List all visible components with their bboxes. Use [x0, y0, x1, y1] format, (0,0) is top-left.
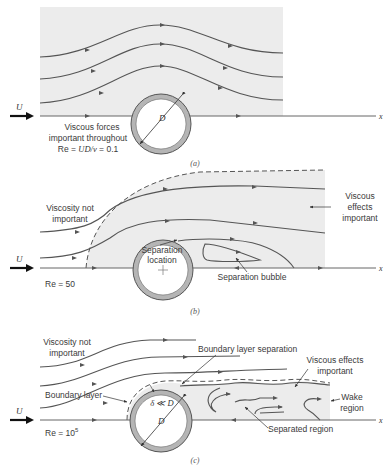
- caption-a: (a): [190, 159, 200, 168]
- x-axis-label: x: [378, 416, 383, 425]
- separation-location-label-2: location: [147, 255, 177, 265]
- viscosity-not-important-label: Viscosity not: [46, 203, 94, 213]
- panel-b: x U Viscosity not important Viscous effe…: [10, 170, 383, 316]
- boundary-layer-separation-label: Boundary layer separation: [198, 344, 298, 354]
- thickness-label: δ ≪ D: [150, 398, 174, 408]
- wake-region-shade: [180, 381, 330, 420]
- reynolds-number: Re = UD/ν = 0.1: [58, 144, 119, 154]
- diameter-label: D: [158, 113, 166, 123]
- free-stream-arrow: [10, 264, 34, 272]
- panel-c: x U D δ ≪ D Viscosity not important Boun…: [10, 337, 383, 465]
- free-stream-label: U: [16, 254, 23, 264]
- annotation-line-2: important throughout: [49, 133, 128, 143]
- caption-b: (b): [190, 307, 200, 316]
- diameter-label: D: [157, 416, 165, 426]
- free-stream-arrow: [10, 416, 34, 424]
- caption-c: (c): [191, 456, 200, 465]
- viscosity-not-important-label-2: important: [52, 214, 88, 224]
- annotation-line-1: Viscous forces: [64, 122, 119, 132]
- boundary-layer-label: Boundary layer: [45, 390, 102, 400]
- panel-a: x U D Viscous forces important throughou…: [10, 7, 383, 168]
- viscous-effects-label: Viscous: [345, 191, 375, 201]
- viscosity-not-important-label-2: important: [49, 348, 85, 358]
- separation-location-label: Separation: [141, 245, 182, 255]
- viscous-effects-label-2: effects: [348, 202, 373, 212]
- free-stream-label: U: [16, 406, 23, 416]
- reynolds-number: Re = 50: [45, 279, 75, 289]
- reynolds-number: Re = 105: [45, 427, 79, 438]
- separation-bubble-label: Separation bubble: [217, 272, 286, 282]
- flow-past-cylinder-figure: x U D Viscous forces important throughou…: [0, 0, 391, 475]
- viscous-region-shade: [86, 170, 325, 268]
- free-stream-label: U: [16, 102, 23, 112]
- x-axis-label: x: [378, 112, 383, 121]
- wake-region-label-2: region: [340, 403, 364, 413]
- wake-region-label: Wake: [341, 392, 363, 402]
- x-axis-label: x: [378, 264, 383, 273]
- viscous-effects-label: Viscous effects: [307, 355, 364, 365]
- free-stream-arrow: [10, 112, 34, 120]
- viscosity-not-important-label: Viscosity not: [43, 337, 91, 347]
- viscous-effects-label-3: important: [342, 213, 378, 223]
- viscous-effects-label-2: important: [317, 366, 353, 376]
- separated-region-label: Separated region: [268, 424, 333, 434]
